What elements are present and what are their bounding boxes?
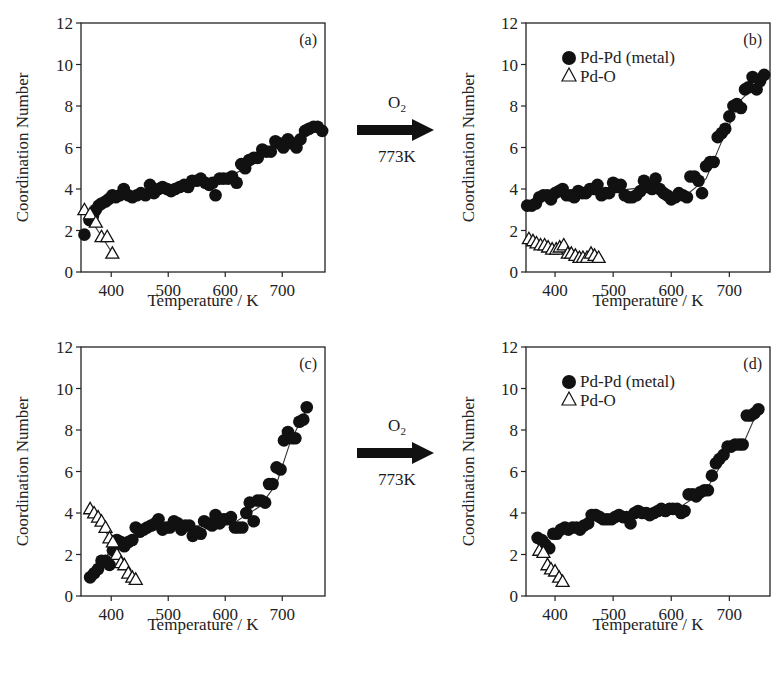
x-tick-label: 400 — [542, 281, 568, 300]
x-tick-label: 700 — [269, 605, 295, 624]
y-axis-label: Coordination Number — [459, 72, 478, 222]
data-point — [735, 102, 748, 115]
legend-label: Pd-Pd (metal) — [580, 48, 675, 67]
series-pd-pd-metal- — [78, 120, 328, 241]
legend-circle-icon — [562, 51, 576, 65]
y-tick-label: 0 — [510, 587, 519, 606]
y-axis-label: Coordination Number — [13, 396, 32, 546]
x-axis-label: Temperature / K — [147, 291, 259, 310]
data-point — [106, 247, 119, 258]
x-axis-label: Temperature / K — [592, 615, 704, 634]
panel-b: 024681012400500600700Temperature / KCoor… — [459, 14, 770, 310]
data-point — [236, 521, 249, 534]
y-tick-label: 6 — [510, 463, 519, 482]
y-tick-label: 6 — [65, 463, 74, 482]
data-point — [209, 189, 222, 202]
y-tick-label: 2 — [65, 222, 74, 241]
x-tick-label: 400 — [98, 281, 124, 300]
right-arrow-icon — [357, 442, 437, 464]
panel-label: (a) — [299, 31, 317, 49]
y-tick-label: 4 — [65, 180, 74, 199]
temperature-label: 773K — [352, 470, 442, 490]
y-tick-label: 12 — [501, 14, 518, 33]
series-pd-pd-metal- — [521, 69, 771, 212]
series-pd-pd-metal- — [531, 403, 764, 555]
y-tick-label: 8 — [65, 97, 74, 116]
data-point — [300, 401, 313, 414]
legend-circle-icon — [562, 375, 576, 389]
data-point — [297, 413, 310, 426]
y-tick-label: 0 — [65, 587, 74, 606]
data-point — [681, 191, 694, 204]
legend-triangle-icon — [562, 392, 576, 405]
figure: 024681012400500600700Temperature / KCoor… — [0, 0, 784, 674]
y-tick-label: 2 — [65, 546, 74, 565]
data-point — [752, 403, 765, 416]
gas-subscript: 2 — [400, 102, 406, 114]
y-tick-label: 0 — [510, 263, 519, 282]
data-point — [316, 125, 329, 138]
gas-symbol: O — [388, 93, 400, 112]
y-tick-label: 2 — [510, 546, 519, 565]
data-point — [247, 515, 260, 528]
data-point — [103, 559, 116, 572]
gas-symbol: O — [388, 416, 400, 435]
gas-label: O2 — [352, 93, 442, 115]
data-point — [692, 174, 705, 187]
arrow-annotation-bottom: O2 773K — [352, 416, 442, 490]
y-tick-label: 8 — [65, 421, 74, 440]
y-tick-label: 6 — [65, 139, 74, 158]
data-point — [758, 69, 771, 82]
y-tick-label: 4 — [510, 504, 519, 523]
legend: Pd-Pd (metal)Pd-O — [562, 48, 675, 86]
y-tick-label: 2 — [510, 222, 519, 241]
y-tick-label: 8 — [510, 421, 519, 440]
data-point — [230, 176, 243, 189]
y-tick-label: 8 — [510, 97, 519, 116]
y-tick-label: 4 — [65, 504, 74, 523]
gas-label: O2 — [352, 416, 442, 438]
data-point — [696, 187, 709, 200]
panel-c: 024681012400500600700Temperature / KCoor… — [13, 338, 325, 634]
data-point — [194, 527, 207, 540]
data-point — [736, 438, 749, 451]
data-point — [719, 123, 732, 136]
y-tick-label: 6 — [510, 139, 519, 158]
arrow-annotation-top: O2 773K — [352, 93, 442, 167]
y-tick-label: 12 — [56, 14, 73, 33]
data-point — [707, 156, 720, 169]
y-tick-label: 10 — [56, 56, 73, 75]
gas-subscript: 2 — [400, 425, 406, 437]
y-tick-label: 0 — [65, 263, 74, 282]
data-point — [702, 484, 715, 497]
x-tick-label: 400 — [98, 605, 124, 624]
data-point — [259, 496, 272, 509]
panel-d: 024681012400500600700Temperature / KCoor… — [459, 338, 770, 634]
right-arrow-icon — [357, 119, 437, 141]
legend-label: Pd-O — [580, 391, 616, 410]
y-tick-label: 10 — [501, 56, 518, 75]
x-axis-label: Temperature / K — [147, 615, 259, 634]
y-tick-label: 12 — [56, 338, 73, 357]
data-point — [289, 432, 302, 445]
panel-label: (c) — [299, 355, 317, 373]
legend-label: Pd-Pd (metal) — [580, 372, 675, 391]
data-point — [78, 228, 91, 241]
x-tick-label: 700 — [717, 281, 743, 300]
y-tick-label: 10 — [501, 380, 518, 399]
panel-a: 024681012400500600700Temperature / KCoor… — [13, 14, 328, 310]
x-tick-label: 700 — [717, 605, 743, 624]
y-tick-label: 4 — [510, 180, 519, 199]
series-pd-o — [522, 232, 605, 262]
y-tick-label: 12 — [501, 338, 518, 357]
x-tick-label: 400 — [542, 605, 568, 624]
x-axis-label: Temperature / K — [592, 291, 704, 310]
data-point — [274, 463, 287, 476]
legend-triangle-icon — [562, 68, 576, 81]
legend: Pd-Pd (metal)Pd-O — [562, 372, 675, 410]
panel-label: (d) — [743, 355, 762, 373]
data-point — [266, 478, 279, 491]
data-point — [706, 469, 719, 482]
x-tick-label: 700 — [269, 281, 295, 300]
y-axis-label: Coordination Number — [459, 396, 478, 546]
